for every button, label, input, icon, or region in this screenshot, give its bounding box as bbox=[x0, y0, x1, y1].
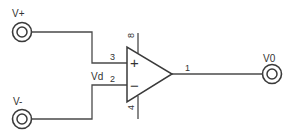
pin-number-8: 8 bbox=[126, 33, 136, 38]
label-vd: Vd bbox=[91, 71, 103, 82]
terminal-inner-ring-icon bbox=[267, 69, 277, 79]
label-v-plus: V+ bbox=[12, 8, 25, 19]
terminal-v-plus[interactable] bbox=[13, 23, 32, 42]
label-v-minus: V- bbox=[13, 96, 22, 107]
pin-number-3: 3 bbox=[110, 52, 115, 62]
pin-number-4: 4 bbox=[126, 105, 136, 110]
terminal-inner-ring-icon bbox=[17, 27, 27, 37]
inverting-sign: − bbox=[130, 77, 139, 94]
terminal-inner-ring-icon bbox=[17, 114, 27, 124]
opamp-schematic: V+ V- V0 + − 3 2 1 8 4 Vd bbox=[0, 0, 295, 137]
terminal-v-minus[interactable] bbox=[13, 110, 32, 129]
pin-number-2: 2 bbox=[110, 74, 115, 84]
label-v-out: V0 bbox=[263, 53, 276, 64]
non-inverting-sign: + bbox=[130, 54, 139, 71]
pin-number-1: 1 bbox=[185, 63, 190, 73]
terminal-v-out[interactable] bbox=[263, 65, 282, 84]
wire-v-minus-to-pin2 bbox=[32, 85, 128, 119]
